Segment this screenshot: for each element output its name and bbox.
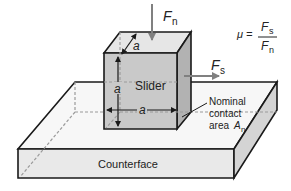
tribology-diagram: a a a Slider F n F s μ = F s F n Nominal… (0, 0, 291, 191)
formula-numerator-symbol: F (261, 20, 269, 34)
contact-area-line3: area (209, 120, 229, 131)
formula-denominator-subscript: n (269, 45, 274, 55)
contact-area-line2: contact (209, 108, 241, 119)
formula-numerator-subscript: s (269, 26, 274, 36)
normal-force-subscript: n (172, 16, 178, 27)
formula-denominator-symbol: F (261, 39, 269, 53)
friction-formula: μ = F s F n (236, 20, 277, 55)
dimension-label-height: a (114, 82, 121, 96)
dimension-label-width: a (139, 103, 146, 117)
formula-lhs: μ = (236, 28, 253, 40)
dimension-label-depth: a (133, 39, 140, 53)
slider-label: Slider (135, 79, 166, 93)
contact-area-symbol: A (233, 120, 241, 131)
shear-force-subscript: s (220, 65, 225, 76)
counterface-label: Counterface (98, 158, 158, 170)
slider-top-face (104, 32, 191, 53)
contact-area-line1: Nominal (209, 96, 246, 107)
contact-area-subscript: n (241, 125, 245, 134)
